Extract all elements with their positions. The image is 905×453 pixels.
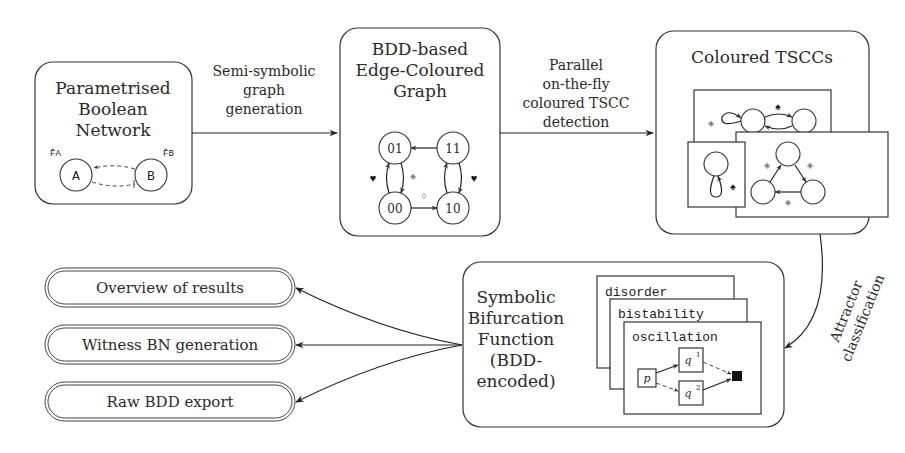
card-label: bistability (618, 307, 704, 322)
colour-diamond-icon: ◊ (422, 191, 427, 201)
colour-spade-icon: ♠ (730, 181, 736, 192)
stage-parametrised-boolean-network: Parametrised Boolean Network F̂A F̂B A B (35, 62, 192, 204)
output-label: Raw BDD export (106, 393, 233, 411)
output-overview-of-results[interactable]: Overview of results (45, 268, 295, 307)
edge-attractor-classification: Attractor classification (785, 234, 887, 364)
svg-text:◈: ◈ (807, 161, 814, 170)
colour-heart-icon: ♥ (370, 172, 377, 184)
edge-label-line: graph (243, 82, 285, 98)
stage-coloured-tsccs: Coloured TSCCs ♠ ◈ ◈ ◈ ◈ ♠ (656, 31, 888, 234)
svg-text:◈: ◈ (785, 198, 792, 207)
state-label: 11 (445, 142, 460, 156)
edge-label-line: Parallel (549, 57, 603, 73)
bdd-node-sup: 1 (696, 351, 700, 359)
stage-title-line: Edge-Coloured (356, 60, 485, 80)
edge-label-line: Semi-symbolic (213, 63, 316, 79)
card-label: oscillation (632, 330, 718, 345)
stage-title-line: Graph (393, 81, 447, 101)
network-node-a-label: A (72, 169, 80, 184)
stage-title-line: Symbolic (477, 287, 556, 307)
edge-label-line: generation (225, 101, 302, 117)
stage-title-line: Network (76, 120, 152, 140)
stage-title-line: Coloured TSCCs (691, 47, 833, 67)
stage-title-line: Function (478, 329, 555, 349)
update-function-label-a: F̂A (50, 148, 61, 159)
stage-title-line: encoded) (476, 371, 555, 391)
stage-title-line: Boolean (78, 99, 148, 119)
stage-title-line: BDD-based (372, 39, 469, 59)
svg-text:◈: ◈ (764, 161, 771, 170)
state-label: 01 (387, 142, 402, 156)
state-label: 00 (387, 202, 402, 216)
stage-title-line: Bifurcation (468, 308, 564, 328)
card-label: disorder (605, 285, 667, 300)
colour-heart-icon: ♥ (471, 172, 478, 184)
edge-tscc-detection: Parallel on-the-fly coloured TSCC detect… (500, 57, 653, 133)
output-witness-bn-generation[interactable]: Witness BN generation (45, 325, 295, 364)
stage-edge-coloured-graph: BDD-based Edge-Coloured Graph 01 11 00 1… (340, 28, 500, 236)
output-raw-bdd-export[interactable]: Raw BDD export (45, 382, 295, 421)
update-function-label-b: F̂B (163, 148, 174, 159)
stage-title-line: Parametrised (55, 78, 170, 98)
edge-label-line: coloured TSCC (523, 95, 630, 111)
bdd-node-sup: 2 (696, 384, 700, 392)
edge-semi-symbolic-generation: Semi-symbolic graph generation (192, 63, 337, 133)
pipeline-diagram: Parametrised Boolean Network F̂A F̂B A B… (0, 0, 905, 453)
bdd-node-label: q (684, 354, 691, 367)
output-label: Witness BN generation (82, 336, 259, 354)
output-label: Overview of results (96, 279, 244, 297)
bdd-terminal-node (732, 371, 742, 381)
bdd-node-label: q (684, 387, 691, 400)
colour-diamond-icon: ◈ (410, 172, 417, 181)
colour-diamond-icon: ◈ (708, 119, 715, 128)
edge-label-line: on-the-fly (542, 76, 609, 92)
colour-spade-icon: ♠ (775, 101, 781, 112)
output-edges (296, 288, 462, 402)
state-label: 10 (445, 202, 460, 216)
bdd-node-label: p (643, 372, 650, 385)
stage-title-line: (BDD- (490, 350, 542, 370)
network-node-b-label: B (147, 169, 155, 184)
stage-symbolic-bifurcation-function: Symbolic Bifurcation Function (BDD- enco… (463, 262, 784, 427)
edge-label-line: detection (543, 114, 610, 130)
